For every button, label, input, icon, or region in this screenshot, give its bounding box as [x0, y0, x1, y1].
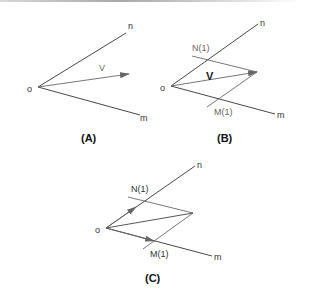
m1-construction-line: [143, 213, 193, 249]
vector-v-arrow: [38, 74, 129, 87]
n1-component-arrow: [106, 207, 136, 228]
panel-b-caption: (B): [217, 133, 232, 144]
resultant-line: [106, 213, 193, 228]
origin-label: o: [160, 84, 165, 93]
panel-b: [171, 24, 275, 114]
v-vector-label: V: [99, 64, 105, 73]
m1-construction-line: [207, 72, 257, 107]
n-axis-label: n: [128, 22, 133, 31]
panel-a-caption: (A): [81, 133, 96, 144]
axis-m-line: [38, 87, 140, 115]
n1-construction-line: [128, 197, 193, 213]
panel-c-caption: (C): [145, 273, 160, 284]
origin-label: o: [27, 85, 32, 94]
axis-n-line: [171, 24, 258, 86]
m-axis-label: m: [140, 114, 148, 123]
m1-component-arrow: [106, 228, 154, 241]
vector-v-arrow: [171, 72, 257, 86]
n1-label: N(1): [131, 185, 149, 194]
m1-label: M(1): [214, 108, 233, 117]
n-axis-label: n: [260, 19, 265, 28]
panel-c: [106, 166, 212, 256]
origin-label: o: [95, 226, 100, 235]
n1-label: N(1): [192, 44, 210, 53]
axis-n-line: [38, 33, 126, 87]
v-vector-label: V: [206, 71, 213, 82]
m1-label: M(1): [150, 250, 169, 259]
m-axis-label: m: [277, 111, 285, 120]
panel-a: [38, 33, 140, 115]
m-axis-label: m: [214, 253, 222, 262]
n-axis-label: n: [197, 161, 202, 170]
